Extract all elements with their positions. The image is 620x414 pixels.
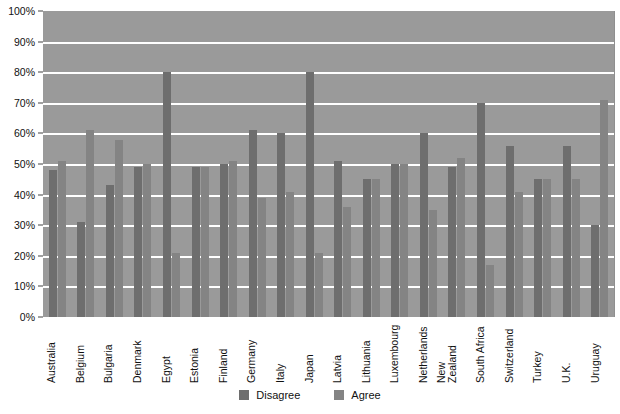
bar-group (500, 11, 529, 317)
bar-agree (229, 161, 237, 317)
bar-group (357, 11, 386, 317)
x-axis-tick-label: Denmark (132, 340, 143, 383)
legend-label: Agree (351, 389, 380, 401)
x-axis-tick: Switzerland (501, 319, 530, 385)
bar-group (100, 11, 129, 317)
bar-group (557, 11, 586, 317)
bar-group (43, 11, 72, 317)
y-axis-tick-label: 0% (20, 311, 35, 323)
x-axis-tick: Finland (215, 319, 244, 385)
y-axis-tick-label: 70% (14, 97, 35, 109)
bar-disagree (77, 222, 85, 317)
x-axis-tick: Turkey (529, 319, 558, 385)
bar-group (243, 11, 272, 317)
x-axis: AustraliaBelgiumBulgariaDenmarkEgyptEsto… (43, 319, 615, 385)
x-axis-tick-label: Latvia (332, 355, 343, 383)
x-axis-tick-label: Egypt (161, 356, 172, 383)
bar-group (414, 11, 443, 317)
plot-area (43, 11, 615, 317)
bar-disagree (334, 161, 342, 317)
bar-agree (315, 253, 323, 317)
x-axis-tick: Denmark (129, 319, 158, 385)
x-axis-tick: New Zealand (443, 319, 472, 385)
x-axis-tick-label: Switzerland (504, 329, 515, 383)
x-axis-tick-label: New Zealand (436, 323, 458, 383)
x-axis-tick: Japan (300, 319, 329, 385)
bar-agree (58, 161, 66, 317)
bar-disagree (49, 170, 57, 317)
x-axis-tick: South Africa (472, 319, 501, 385)
bar-group (328, 11, 357, 317)
y-axis-tick-label: 60% (14, 127, 35, 139)
x-axis-tick: Estonia (186, 319, 215, 385)
bar-group (186, 11, 215, 317)
bar-agree (400, 164, 408, 317)
bar-group (129, 11, 158, 317)
bar-group (157, 11, 186, 317)
bar-agree (372, 179, 380, 317)
y-axis-tick-label: 100% (8, 5, 35, 17)
bar-disagree (448, 167, 456, 317)
x-axis-tick-label: Turkey (532, 351, 543, 383)
legend-item-disagree[interactable]: Disagree (239, 389, 300, 401)
bar-disagree (477, 103, 485, 317)
y-axis-tick-label: 40% (14, 189, 35, 201)
chart-legend: DisagreeAgree (0, 389, 620, 401)
y-axis-tick-label: 80% (14, 66, 35, 78)
bar-disagree (249, 130, 257, 317)
bar-agree (343, 207, 351, 317)
legend-swatch-icon (334, 390, 344, 400)
y-axis-tick-label: 50% (14, 158, 35, 170)
bar-agree (457, 158, 465, 317)
x-axis-tick-label: Japan (304, 354, 315, 383)
x-axis-tick: Lithuania (358, 319, 387, 385)
x-axis-tick-label: Australia (46, 342, 57, 383)
bar-agree (143, 164, 151, 317)
bar-agree (429, 210, 437, 317)
y-axis-tick-label: 90% (14, 36, 35, 48)
legend-item-agree[interactable]: Agree (334, 389, 380, 401)
x-axis-tick-label: Uruguay (590, 343, 601, 383)
bar-group (386, 11, 415, 317)
bar-agree (86, 130, 94, 317)
bar-disagree (134, 167, 142, 317)
x-axis-tick: Luxembourg (386, 319, 415, 385)
legend-label: Disagree (256, 389, 300, 401)
x-axis-tick-label: Finland (218, 349, 229, 383)
x-axis-tick: Bulgaria (100, 319, 129, 385)
bar-group (443, 11, 472, 317)
bar-disagree (534, 179, 542, 317)
bar-groups (43, 11, 614, 317)
x-axis-tick: Belgium (72, 319, 101, 385)
y-axis: 100%90%80%70%60%50%40%30%20%10%0% (0, 0, 43, 330)
x-axis-tick-label: Netherlands (418, 326, 429, 383)
y-axis-tick-label: 20% (14, 250, 35, 262)
bar-group (300, 11, 329, 317)
bar-disagree (591, 225, 599, 317)
x-axis-tick: U.K. (558, 319, 587, 385)
x-axis-tick: Latvia (329, 319, 358, 385)
x-axis-tick-label: Bulgaria (103, 344, 114, 383)
bar-disagree (420, 133, 428, 317)
bar-group (271, 11, 300, 317)
bar-disagree (220, 164, 228, 317)
x-axis-tick: Australia (43, 319, 72, 385)
bar-disagree (163, 72, 171, 317)
bar-agree (258, 198, 266, 317)
bar-agree (486, 265, 494, 317)
legend-swatch-icon (239, 390, 249, 400)
bar-disagree (277, 133, 285, 317)
bar-agree (543, 179, 551, 317)
bar-agree (600, 100, 608, 317)
x-axis-tick: Germany (243, 319, 272, 385)
bar-group (585, 11, 614, 317)
bar-disagree (106, 185, 114, 317)
x-axis-tick-label: Luxembourg (389, 325, 400, 383)
bar-agree (515, 192, 523, 317)
x-axis-tick-label: Italy (275, 364, 286, 383)
x-axis-tick: Italy (272, 319, 301, 385)
x-axis-tick-label: Lithuania (361, 340, 372, 383)
bar-group (72, 11, 101, 317)
bar-disagree (391, 164, 399, 317)
bar-agree (201, 167, 209, 317)
